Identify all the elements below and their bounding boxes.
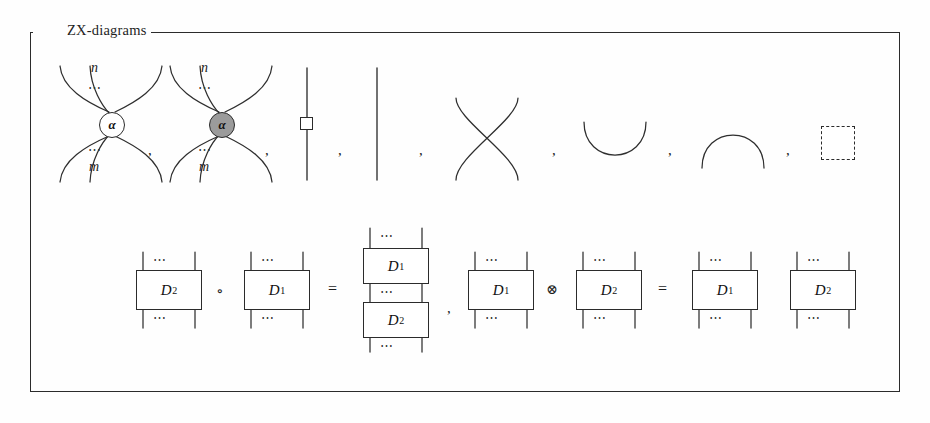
tensor-result-d1-top-ellipsis: ⋯ bbox=[709, 252, 725, 268]
tensor-equals: = bbox=[658, 280, 667, 298]
equations-separator-comma: , bbox=[447, 300, 451, 317]
stacked-bottom-ellipsis: ⋯ bbox=[380, 338, 396, 354]
tensor-operator: ⊗ bbox=[546, 281, 558, 298]
separator-comma-7: , bbox=[786, 142, 790, 159]
separator-comma-3: , bbox=[338, 142, 342, 159]
tensor-result-d2-subscript: 2 bbox=[826, 285, 832, 296]
figure-canvas: ZX-diagrams α n ⋯ ⋯ m , bbox=[0, 0, 930, 423]
tensor-result-d1-subscript: 1 bbox=[728, 285, 734, 296]
d1-box: D1 bbox=[244, 270, 310, 310]
tensor-d2-top-ellipsis: ⋯ bbox=[593, 252, 609, 268]
white-spider-node: α bbox=[99, 112, 125, 138]
tensor-d2-box: D2 bbox=[576, 270, 642, 310]
composition-equals: = bbox=[328, 280, 337, 298]
stacked-d2-label: D bbox=[388, 312, 399, 329]
white-spider-bottom-label: m bbox=[89, 159, 99, 175]
gray-spider-node: α bbox=[209, 112, 235, 138]
white-spider-bottom-ellipsis: ⋯ bbox=[88, 142, 104, 158]
tensor-result-d2-bottom-ellipsis: ⋯ bbox=[807, 310, 823, 326]
identity-wire bbox=[370, 68, 384, 180]
stacked-d2-subscript: 2 bbox=[399, 315, 405, 326]
tensor-result-d2-box: D2 bbox=[790, 270, 856, 310]
d2-label: D bbox=[161, 282, 172, 299]
stacked-top-ellipsis: ⋯ bbox=[380, 228, 396, 244]
white-spider-top-label: n bbox=[91, 60, 98, 76]
tensor-result-d1-label: D bbox=[717, 282, 728, 299]
empty-diagram-box bbox=[821, 126, 855, 160]
tensor-result-d1-bottom-ellipsis: ⋯ bbox=[709, 310, 725, 326]
d2-box: D2 bbox=[136, 270, 202, 310]
hadamard-box bbox=[300, 117, 313, 130]
stacked-d1-label: D bbox=[388, 258, 399, 275]
stacked-mid-ellipsis: ⋯ bbox=[380, 284, 396, 300]
tensor-d1-label: D bbox=[493, 282, 504, 299]
tensor-d2-subscript: 2 bbox=[612, 285, 618, 296]
tensor-d1-bottom-ellipsis: ⋯ bbox=[485, 310, 501, 326]
frame-title: ZX-diagrams bbox=[63, 22, 151, 39]
white-spider-label: α bbox=[108, 117, 115, 133]
tensor-d2-bottom-ellipsis: ⋯ bbox=[593, 310, 609, 326]
cap-wire bbox=[698, 116, 768, 174]
tensor-result-d2-label: D bbox=[815, 282, 826, 299]
tensor-d2-label: D bbox=[601, 282, 612, 299]
tensor-result-d2-top-ellipsis: ⋯ bbox=[807, 252, 823, 268]
separator-comma-5: , bbox=[552, 142, 556, 159]
separator-comma-6: , bbox=[668, 142, 672, 159]
gray-spider-bottom-ellipsis: ⋯ bbox=[198, 142, 214, 158]
gray-spider-bottom-label: m bbox=[199, 159, 209, 175]
tensor-d1-top-ellipsis: ⋯ bbox=[485, 252, 501, 268]
d1-top-ellipsis: ⋯ bbox=[261, 252, 277, 268]
gray-spider-top-ellipsis: ⋯ bbox=[198, 80, 214, 96]
separator-comma-4: , bbox=[419, 142, 423, 159]
composition-operator: ∘ bbox=[216, 282, 223, 300]
d1-subscript: 1 bbox=[280, 285, 286, 296]
tensor-d1-box: D1 bbox=[468, 270, 534, 310]
tensor-result-d1-box: D1 bbox=[692, 270, 758, 310]
gray-spider-label: α bbox=[218, 117, 225, 133]
stacked-d1-box: D1 bbox=[363, 248, 429, 284]
cup-wire bbox=[580, 122, 650, 180]
d2-top-ellipsis: ⋯ bbox=[153, 252, 169, 268]
white-spider-top-ellipsis: ⋯ bbox=[88, 80, 104, 96]
swap-wires bbox=[452, 98, 524, 182]
d2-subscript: 2 bbox=[172, 285, 178, 296]
stacked-d1-subscript: 1 bbox=[399, 261, 405, 272]
d1-bottom-ellipsis: ⋯ bbox=[261, 310, 277, 326]
d2-bottom-ellipsis: ⋯ bbox=[153, 310, 169, 326]
d1-label: D bbox=[269, 282, 280, 299]
tensor-d1-subscript: 1 bbox=[504, 285, 510, 296]
gray-spider-top-label: n bbox=[201, 60, 208, 76]
separator-comma-2: , bbox=[265, 142, 269, 159]
separator-comma-1: , bbox=[148, 142, 152, 159]
stacked-d2-box: D2 bbox=[363, 302, 429, 338]
